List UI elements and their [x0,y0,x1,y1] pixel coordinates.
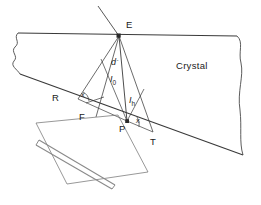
crystal-right-torn-edge [237,36,243,155]
crystal-left-torn-edge [13,33,20,74]
crystal-body [13,33,243,155]
label-beam-incident-sub: 0 [113,79,117,86]
detector-plate-cap-start [36,140,39,145]
ray-E-R [78,36,119,99]
label-angle-right-x: x [136,117,140,124]
label-beam-diffracted-sub: h [132,100,136,107]
label-point-F: F [79,112,85,122]
ray-midfan-P [101,59,127,121]
figure-canvas: E R F P T Crystal d´ I0 Ih x x [0,0,261,205]
detector-plate-edge-b [39,140,115,185]
ray-P-T [127,121,153,132]
label-region-crystal: Crystal [176,61,208,71]
label-path-d-prime-mark: ´ [116,58,119,67]
marker-P [125,119,129,123]
detector-plate-edge-a [36,145,112,189]
label-point-E: E [126,20,132,30]
detector-assembly [36,115,148,189]
label-point-T: T [150,137,156,147]
marker-E [117,34,121,38]
label-point-P: P [119,124,125,134]
label-angle-left-x: x [81,91,85,98]
label-path-d-prime: d´ [111,58,119,67]
rays-into-P [78,59,153,132]
incident-beam-ray [98,6,119,36]
crystal-bottom-surface [20,74,243,155]
detector-plate-cap-end [112,185,115,189]
crystal-top-surface [18,33,237,36]
label-beam-incident: I0 [110,75,116,86]
ray-E-P [119,36,127,121]
detector-frame [36,115,148,184]
label-point-R: R [52,93,59,103]
label-beam-diffracted: Ih [129,96,135,107]
